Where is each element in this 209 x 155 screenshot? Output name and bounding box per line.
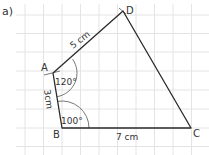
quadrilateral-diagram: a) A B C D 5 cm 3cm 7 cm 120° 100° — [0, 0, 209, 155]
vertex-label-b: B — [53, 129, 60, 140]
vertex-label-c: C — [193, 128, 200, 139]
angle-arcs — [44, 8, 126, 128]
part-label: a) — [2, 5, 13, 18]
quadrilateral-abcd — [53, 11, 191, 128]
side-label-bc: 7 cm — [116, 132, 138, 142]
grid — [16, 4, 209, 155]
angle-label-a: 120° — [55, 77, 77, 87]
vertex-label-a: A — [41, 62, 48, 73]
vertex-label-d: D — [126, 5, 134, 16]
angle-label-b: 100° — [61, 116, 83, 126]
side-label-ad: 5 cm — [68, 29, 92, 51]
